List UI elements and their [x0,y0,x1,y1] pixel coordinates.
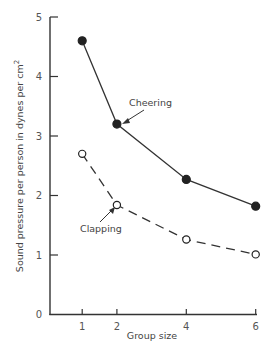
cheering-annotation: Cheering [122,97,172,124]
data-point [113,120,121,128]
x-axis-label: Group size [127,330,178,341]
x-tick-label: 1 [79,321,85,332]
arrow-icon [122,118,130,124]
x-tick-label: 6 [253,321,259,332]
x-ticks: 1246 [79,309,259,332]
y-tick-label: 2 [36,190,42,201]
arrow-icon [109,207,115,214]
y-ticks: 012345 [36,12,58,321]
y-axis-label: Sound pressure per person in dynes per c… [13,60,25,272]
x-tick-label: 4 [183,321,189,332]
y-tick-label: 5 [36,12,42,23]
cheering-label: Cheering [129,97,172,108]
chart: 012345 1246 Cheering Clapping Group size… [0,0,275,357]
clapping-label: Clapping [80,223,122,234]
data-point [78,37,86,45]
data-point [252,251,259,258]
y-tick-label: 1 [36,250,42,261]
data-point [252,202,260,210]
series-cheering [78,37,260,210]
clapping-annotation: Clapping [80,207,122,234]
data-point [183,236,190,243]
data-point [182,175,190,183]
y-tick-label: 0 [36,309,42,320]
y-tick-label: 4 [36,71,42,82]
svg-text:Sound pressure per person in d: Sound pressure per person in dynes per c… [13,60,25,272]
x-tick-label: 2 [114,321,120,332]
data-point [79,150,86,157]
y-tick-label: 3 [36,131,42,142]
